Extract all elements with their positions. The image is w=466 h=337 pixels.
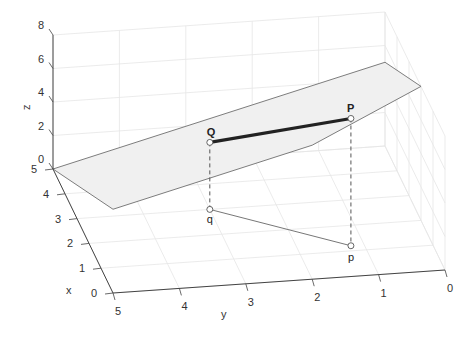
y-tick [113, 293, 115, 300]
x-tick [93, 268, 101, 269]
z-tick [49, 29, 53, 35]
x-tick-label: 0 [91, 287, 97, 299]
y-tick [179, 288, 181, 295]
backwall-gridline-z [53, 12, 385, 35]
z-tick-label: 6 [38, 53, 44, 65]
y-tick [312, 279, 314, 286]
x-tick [57, 194, 65, 195]
y-tick-label: 0 [447, 282, 453, 294]
x-tick [69, 219, 77, 220]
y-tick-label: 2 [314, 291, 320, 303]
backwall-gridline-z [53, 46, 385, 69]
point-q-marker [207, 206, 213, 212]
y-tick-label: 3 [248, 296, 254, 308]
z-tick-label: 4 [38, 86, 44, 98]
z-tick-label: 8 [38, 19, 44, 31]
point-p-label: p [348, 251, 354, 263]
x-tick-label: 3 [55, 213, 61, 225]
y-tick-label: 4 [181, 300, 187, 312]
x-tick-label: 2 [67, 237, 73, 249]
z-tick [49, 163, 53, 169]
z-tick [49, 63, 53, 69]
x-tick [45, 169, 53, 170]
x-tick [105, 293, 113, 294]
y-axis-label: y [221, 308, 227, 320]
z-tick [49, 130, 53, 136]
point-Q-label: Q [207, 126, 216, 138]
point-P-marker [348, 115, 354, 121]
z-axis-label: z [20, 105, 32, 111]
plane-surface [53, 62, 421, 209]
sidewall-gridline-z [385, 146, 445, 270]
y-tick [445, 270, 447, 277]
x-axis-label: x [66, 284, 72, 296]
sidewall-gridline-z [385, 113, 445, 237]
x-tick [81, 243, 89, 244]
z-tick-label: 2 [38, 120, 44, 132]
x-tick-label: 5 [31, 163, 37, 175]
y-tick-label: 5 [115, 305, 121, 317]
z-tick [49, 96, 53, 102]
plane-layer [53, 62, 421, 209]
y-axis-line [113, 270, 445, 293]
point-Q-marker [207, 139, 213, 145]
segment-pq [210, 209, 351, 245]
plot-3d: qpQP 02468012345012345 x y z [0, 0, 466, 337]
x-tick-label: 4 [43, 188, 49, 200]
floor-gridline-x [89, 220, 421, 243]
point-q-label: q [207, 213, 213, 225]
x-tick-label: 1 [79, 262, 85, 274]
z-tick-label: 0 [38, 153, 44, 165]
floor-gridline-y [252, 155, 312, 279]
point-P-label: P [347, 102, 354, 114]
y-tick-label: 1 [381, 287, 387, 299]
y-tick [379, 275, 381, 282]
sidewall-gridline-z [385, 46, 445, 170]
floor-gridline-x [101, 245, 433, 268]
point-p-marker [348, 243, 354, 249]
y-tick [246, 284, 248, 291]
